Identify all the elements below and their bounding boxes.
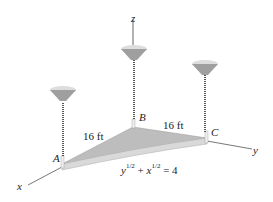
point-c-label: C — [211, 127, 218, 138]
curve-equation: y1/2 + x1/2 = 4 — [121, 162, 178, 176]
eq-term1-exponent: 1/2 — [126, 162, 135, 170]
y-axis-label: y — [253, 145, 258, 156]
dimension-ab: 16 ft — [83, 131, 103, 142]
figure-canvas: z x y A B C 16 ft 16 ft y1/2 + x1/2 = 4 — [0, 0, 273, 202]
eq-rhs: = 4 — [163, 164, 177, 176]
eq-operator: + — [138, 164, 144, 176]
eq-term2-exponent: 1/2 — [151, 162, 160, 170]
anchor-a — [50, 86, 76, 101]
dimension-bc: 16 ft — [163, 120, 183, 131]
corner-post-c — [205, 131, 208, 143]
x-axis-label: x — [17, 181, 22, 192]
corner-post-b — [132, 119, 135, 128]
z-axis-label: z — [131, 13, 135, 24]
x-axis — [28, 167, 62, 185]
point-b-label: B — [139, 112, 146, 123]
anchor-b — [121, 45, 147, 60]
corner-post-a — [61, 156, 64, 168]
y-axis — [207, 141, 252, 149]
anchor-c — [192, 60, 218, 75]
point-a-label: A — [53, 153, 60, 164]
